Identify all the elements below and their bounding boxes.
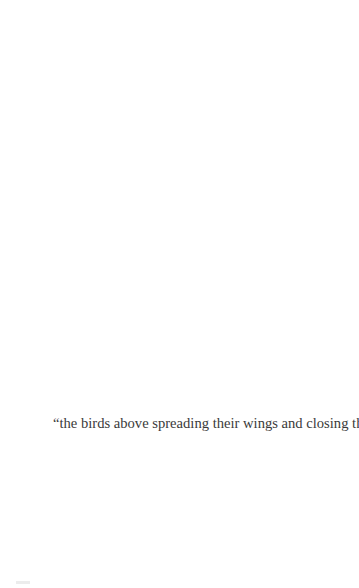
quote-text: “the birds above spreading their wings a… (53, 414, 353, 432)
page-footer-mark (16, 581, 30, 584)
document-page: “the birds above spreading their wings a… (0, 0, 359, 588)
